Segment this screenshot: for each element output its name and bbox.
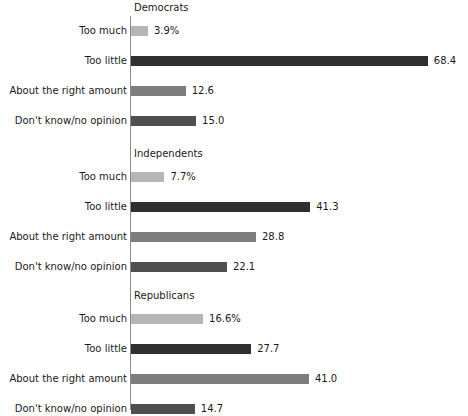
bar-row: About the right amount28.8 — [0, 230, 468, 244]
bar-category-label: Don't know/no opinion — [0, 114, 127, 128]
bar — [131, 86, 186, 96]
bar-category-label: Too little — [0, 54, 127, 68]
bar-value-label: 28.8 — [262, 230, 284, 244]
bar — [131, 404, 195, 414]
bar-row: Too little68.4 — [0, 54, 468, 68]
bar — [131, 116, 196, 126]
panel-title: Democrats — [134, 2, 189, 14]
bar-row: About the right amount41.0 — [0, 372, 468, 386]
bar — [131, 314, 203, 324]
bar-row: Too much3.9% — [0, 24, 468, 38]
bar-category-label: Don't know/no opinion — [0, 402, 127, 416]
bar-value-label: 12.6 — [192, 84, 214, 98]
grouped-bar-chart: DemocratsToo much3.9%Too little68.4About… — [0, 0, 468, 416]
bar-category-label: Too much — [0, 24, 127, 38]
bar-row: Too little27.7 — [0, 342, 468, 356]
bar-row: Too little41.3 — [0, 200, 468, 214]
bar-category-label: About the right amount — [0, 84, 127, 98]
bar-row: Don't know/no opinion15.0 — [0, 114, 468, 128]
bar-category-label: Too much — [0, 170, 127, 184]
bar-value-label: 27.7 — [257, 342, 279, 356]
bar — [131, 56, 428, 66]
bar — [131, 172, 164, 182]
bar — [131, 202, 310, 212]
bar-row: Too much16.6% — [0, 312, 468, 326]
bar-category-label: About the right amount — [0, 372, 127, 386]
bar-row: Don't know/no opinion22.1 — [0, 260, 468, 274]
bar-value-label: 22.1 — [233, 260, 255, 274]
bar-value-label: 16.6% — [209, 312, 241, 326]
bar — [131, 344, 251, 354]
bar-row: About the right amount12.6 — [0, 84, 468, 98]
bar-value-label: 68.4 — [434, 54, 456, 68]
bar-row: Don't know/no opinion14.7 — [0, 402, 468, 416]
bar-value-label: 14.7 — [201, 402, 223, 416]
bar — [131, 232, 256, 242]
bar-category-label: Too little — [0, 200, 127, 214]
panel-title: Independents — [134, 148, 203, 160]
bar — [131, 262, 227, 272]
bar-category-label: Don't know/no opinion — [0, 260, 127, 274]
bar-value-label: 41.0 — [315, 372, 337, 386]
bar-row: Too much7.7% — [0, 170, 468, 184]
panel-title: Republicans — [134, 290, 194, 302]
bar-value-label: 41.3 — [316, 200, 338, 214]
bar-value-label: 15.0 — [202, 114, 224, 128]
bar — [131, 374, 309, 384]
bar — [131, 26, 148, 36]
bar-value-label: 7.7% — [170, 170, 195, 184]
bar-category-label: Too much — [0, 312, 127, 326]
bar-category-label: Too little — [0, 342, 127, 356]
bar-category-label: About the right amount — [0, 230, 127, 244]
bar-value-label: 3.9% — [154, 24, 179, 38]
